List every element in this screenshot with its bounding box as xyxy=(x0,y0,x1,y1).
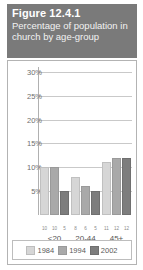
bar-value-label: 6 xyxy=(81,226,90,232)
bar-value-label: 10 xyxy=(50,226,59,232)
figure-subtitle: Percentage of population in church by ag… xyxy=(12,20,132,43)
bar[interactable] xyxy=(50,167,59,215)
legend-item-1994[interactable]: 1994 xyxy=(58,246,86,255)
legend-item-2002[interactable]: 2002 xyxy=(90,246,118,255)
bar-group xyxy=(101,67,132,215)
legend-swatch-icon xyxy=(58,246,67,255)
bar[interactable] xyxy=(112,158,121,215)
bar[interactable] xyxy=(60,191,69,215)
figure-number: Figure 12.4.1 xyxy=(12,7,132,19)
bar-value-group: 10105 xyxy=(39,226,70,232)
plot-wrapper: 5%10%15%20%25%30% 10105865111212 <2020-4… xyxy=(8,63,136,223)
figure-header: Figure 12.4.1 Percentage of population i… xyxy=(7,4,137,58)
bar-value-label: 11 xyxy=(102,226,111,232)
bar-group xyxy=(39,67,70,215)
legend-label: 1984 xyxy=(37,246,54,255)
bar-value-group: 865 xyxy=(70,226,101,232)
chart-panel: 5%10%15%20%25%30% 10105865111212 <2020-4… xyxy=(7,60,137,265)
bar[interactable] xyxy=(81,186,90,215)
figure-container: Figure 12.4.1 Percentage of population i… xyxy=(0,0,143,270)
legend-swatch-icon xyxy=(90,246,99,255)
legend-label: 2002 xyxy=(101,246,118,255)
bar-value-labels: 10105865111212 xyxy=(39,226,132,234)
bar-value-label: 5 xyxy=(60,226,69,232)
bar[interactable] xyxy=(102,162,111,215)
chart-legend: 198419942002 xyxy=(12,240,132,260)
bar[interactable] xyxy=(40,167,49,215)
bar-value-label: 12 xyxy=(122,226,131,232)
legend-label: 1994 xyxy=(69,246,86,255)
bar[interactable] xyxy=(71,177,80,215)
plot-area xyxy=(39,67,132,215)
bar-value-label: 10 xyxy=(40,226,49,232)
legend-item-1984[interactable]: 1984 xyxy=(26,246,54,255)
bar-group xyxy=(70,67,101,215)
bar[interactable] xyxy=(122,158,131,215)
bar-value-label: 5 xyxy=(91,226,100,232)
legend-swatch-icon xyxy=(26,246,35,255)
bar-value-label: 8 xyxy=(71,226,80,232)
bar-value-group: 111212 xyxy=(101,226,132,232)
bar[interactable] xyxy=(91,191,100,215)
bar-value-label: 12 xyxy=(112,226,121,232)
